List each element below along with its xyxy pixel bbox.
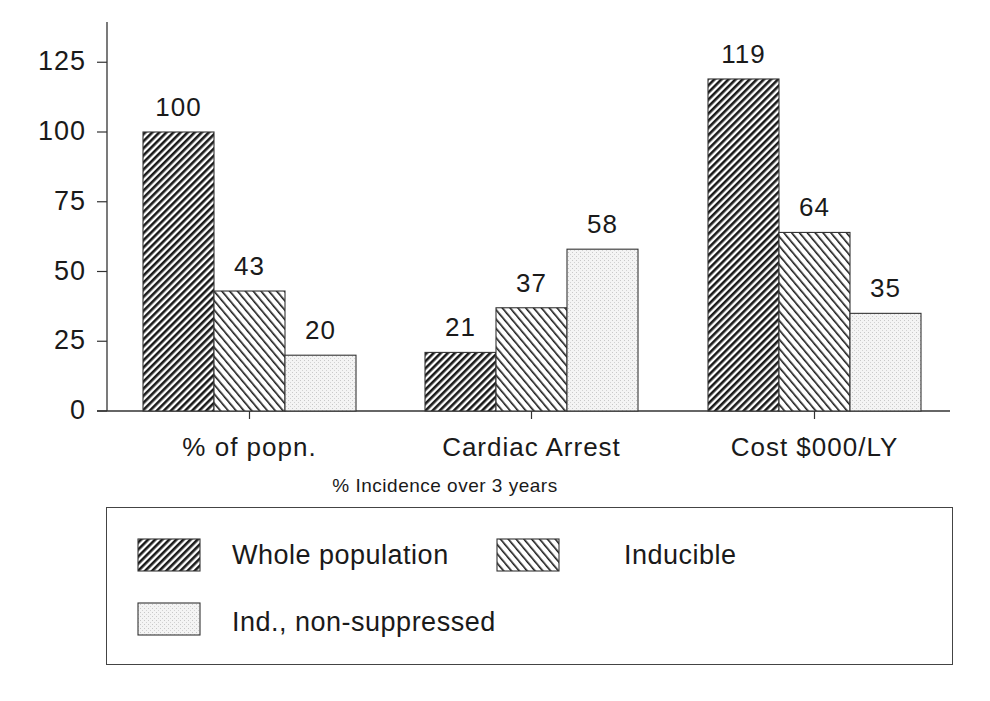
bar-value-label: 20 [281,315,361,346]
x-category-label: Cardiac Arrest [392,432,672,463]
bar-whole-population [425,352,496,411]
bar-value-label: 119 [704,39,784,70]
x-category-label: Cost $000/LY [675,432,955,463]
y-tick-label: 0 [6,395,86,426]
bar-ind-non-suppressed [567,249,638,411]
bar-value-label: 43 [210,251,290,282]
bar-value-label: 100 [139,92,219,123]
y-tick-label: 50 [6,256,86,287]
bar-inducible [779,232,850,411]
bar-ind-non-suppressed [285,355,356,411]
bar-value-label: 35 [846,273,926,304]
bar-value-label: 58 [563,209,643,240]
legend-label-inducible: Inducible [624,540,737,571]
y-tick-label: 75 [6,186,86,217]
bar-value-label: 64 [775,192,855,223]
x-category-label: % of popn. [110,432,390,463]
bar-whole-population [708,79,779,411]
bar-inducible [496,308,567,411]
bar-value-label: 21 [421,312,501,343]
y-tick-label: 125 [6,46,86,77]
chart-subtitle: % Incidence over 3 years [245,475,645,497]
bar-inducible [214,291,285,411]
bar-ind-non-suppressed [850,313,921,411]
legend-label-ind-non-suppressed: Ind., non-suppressed [232,607,496,638]
y-tick-label: 100 [6,116,86,147]
legend-label-whole-population: Whole population [232,540,449,571]
bar-whole-population [143,132,214,411]
bars [143,79,921,411]
y-tick-label: 25 [6,325,86,356]
legend [106,507,953,665]
bar-value-label: 37 [492,268,572,299]
